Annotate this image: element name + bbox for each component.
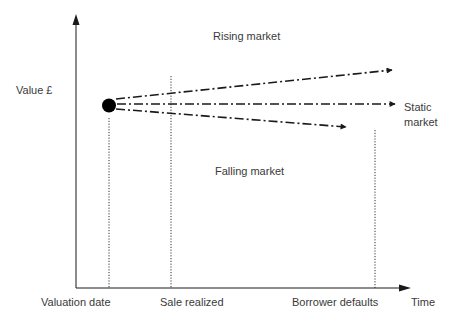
valuation-point-dot: [102, 99, 116, 113]
sale-realized-label: Sale realized: [160, 295, 224, 309]
static-market-label-line1: Static: [404, 100, 432, 114]
y-axis-arrow-icon: [73, 14, 80, 25]
rising-market-label: Rising market: [213, 29, 280, 43]
y-axis: [73, 14, 80, 288]
static-market-label-line2: market: [404, 115, 438, 129]
rising-market-line: [116, 70, 392, 99]
borrower-defaults-label: Borrower defaults: [292, 295, 378, 309]
valuation-diagram: [0, 0, 453, 322]
x-axis-arrow-icon: [399, 285, 411, 292]
x-axis: [76, 285, 411, 292]
falling-market-label: Falling market: [215, 164, 284, 178]
falling-market-line: [116, 109, 346, 127]
valuation-date-label: Valuation date: [41, 295, 111, 309]
x-axis-label: Time: [411, 295, 435, 309]
y-axis-label: Value £: [16, 83, 53, 97]
